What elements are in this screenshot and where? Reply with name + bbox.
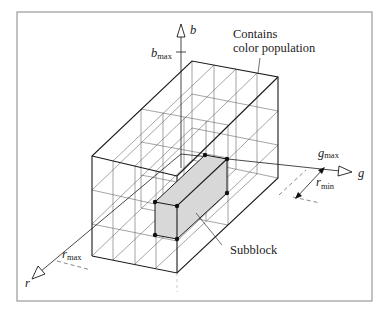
contains-label-line1: Contains xyxy=(233,27,278,41)
r-axis-label: r xyxy=(25,276,30,290)
subblock-label: Subblock xyxy=(230,243,278,257)
g-axis-label: g xyxy=(358,166,364,180)
color-cube-subblock-diagram: b bmax g gmax r rmax rmin Contains color… xyxy=(0,0,387,318)
b-axis-label: b xyxy=(190,23,196,37)
contains-label-line2: color population xyxy=(233,41,316,55)
